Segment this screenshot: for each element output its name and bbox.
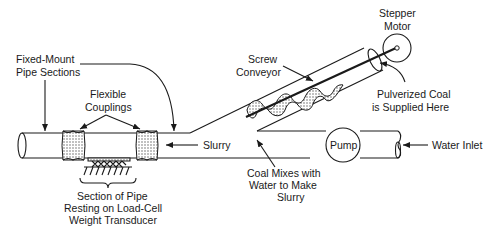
label-supplied-here: is Supplied Here bbox=[372, 101, 449, 113]
label-pump: Pump bbox=[330, 139, 358, 151]
label-slurry: Slurry bbox=[203, 139, 231, 151]
stepper-motor bbox=[383, 34, 411, 62]
label-flexible: Flexible bbox=[90, 88, 126, 100]
leader-lines bbox=[45, 63, 428, 167]
label-resting-on: Resting on Load-Cell bbox=[64, 202, 162, 214]
label-couplings: Couplings bbox=[85, 101, 132, 113]
conveyor-tube bbox=[190, 47, 385, 133]
section-brace bbox=[80, 178, 136, 188]
label-pulverized-coal: Pulverized Coal bbox=[377, 88, 451, 100]
pipe-left-end bbox=[18, 133, 26, 158]
label-pipe-sections: Pipe Sections bbox=[16, 66, 80, 78]
label-screw: Screw bbox=[248, 53, 278, 65]
label-weight-transducer: Weight Transducer bbox=[69, 214, 157, 226]
motor-hub-icon bbox=[395, 46, 399, 50]
label-coal-mixes: Coal Mixes with bbox=[247, 167, 321, 179]
flexible-coupling-2 bbox=[136, 131, 158, 160]
slurry-system-diagram: Fixed-Mount Pipe Sections Flexible Coupl… bbox=[0, 0, 496, 230]
label-fixed-mount: Fixed-Mount bbox=[16, 53, 74, 65]
label-stepper: Stepper bbox=[379, 7, 416, 19]
load-cell-transducer bbox=[80, 158, 136, 188]
label-conveyor: Conveyor bbox=[236, 66, 281, 78]
label-water-inlet: Water Inlet bbox=[432, 139, 482, 151]
flexible-coupling-1 bbox=[62, 131, 85, 160]
label-section-of-pipe: Section of Pipe bbox=[77, 190, 148, 202]
label-motor: Motor bbox=[384, 20, 411, 32]
label-water-to-make: Water to Make bbox=[249, 179, 317, 191]
label-mix-slurry: Slurry bbox=[277, 191, 305, 203]
